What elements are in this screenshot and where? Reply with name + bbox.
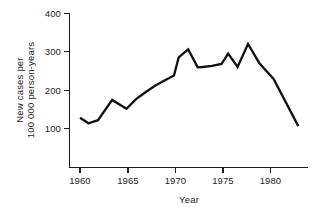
x-tick-label-1965: 1965 — [117, 175, 139, 186]
x-tick-labels: 1960 1965 1970 1975 1980 — [69, 175, 281, 186]
x-axis-title: Year — [179, 194, 199, 205]
y-tick-label-200: 200 — [45, 85, 61, 96]
incidence-series-line — [80, 44, 298, 126]
y-tick-labels: 400 300 200 100 — [45, 8, 61, 134]
y-axis-title-line2: 100 000 person-years — [25, 42, 36, 138]
x-tick-label-1970: 1970 — [165, 175, 187, 186]
chart-figure: 400 300 200 100 1960 1965 1970 1975 1980… — [0, 0, 313, 209]
x-tick-label-1980: 1980 — [260, 175, 282, 186]
y-axis-title-line1: New cases per — [14, 57, 25, 122]
y-tick-label-100: 100 — [45, 123, 61, 134]
x-tick-marks — [80, 168, 271, 174]
y-tick-label-400: 400 — [45, 8, 61, 19]
x-tick-label-1975: 1975 — [212, 175, 234, 186]
line-chart-canvas: 400 300 200 100 1960 1965 1970 1975 1980… — [0, 0, 313, 209]
y-tick-label-300: 300 — [45, 46, 61, 57]
y-tick-marks — [64, 14, 70, 129]
x-tick-label-1960: 1960 — [69, 175, 91, 186]
